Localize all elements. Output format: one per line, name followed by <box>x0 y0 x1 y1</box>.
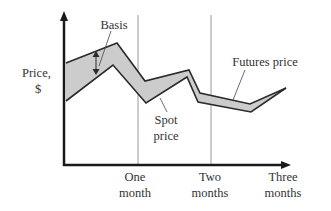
spot-price-label-line1: Spot <box>155 113 178 127</box>
x-tick-three-months-line2: months <box>265 186 302 200</box>
x-tick-two-months-line2: months <box>192 186 229 200</box>
spot-leader <box>160 98 167 112</box>
basis-label: Basis <box>100 18 127 32</box>
basis-area <box>66 43 286 112</box>
futures-leader <box>233 70 245 100</box>
y-axis-arrow-icon <box>60 11 68 21</box>
basis-chart: Price, $ Basis Futures price Spot price … <box>0 0 331 211</box>
x-tick-one-month-line1: One <box>125 170 146 184</box>
y-axis-label-line1: Price, <box>22 66 51 80</box>
x-tick-one-month-line2: month <box>119 186 152 200</box>
x-axis-arrow-icon <box>281 161 291 169</box>
spot-price-label-line2: price <box>154 129 179 143</box>
x-tick-three-months-line1: Three <box>268 170 298 184</box>
y-axis-label-line2: $ <box>35 82 41 96</box>
futures-price-label: Futures price <box>232 55 298 69</box>
x-tick-two-months-line1: Two <box>199 170 221 184</box>
